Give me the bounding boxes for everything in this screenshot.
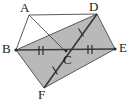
vertex-label-e: E (119, 41, 127, 54)
vertex-label-c: C (63, 53, 72, 66)
geometry-figure: A D B C E F (0, 0, 132, 104)
vertex-dot-e (113, 47, 116, 50)
vertex-dot-b (14, 48, 17, 51)
segment-ad (29, 14, 97, 15)
vertex-label-b: B (2, 42, 11, 55)
vertex-label-f: F (38, 88, 45, 101)
vertex-label-a: A (20, 1, 29, 14)
vertex-label-d: D (89, 0, 98, 13)
